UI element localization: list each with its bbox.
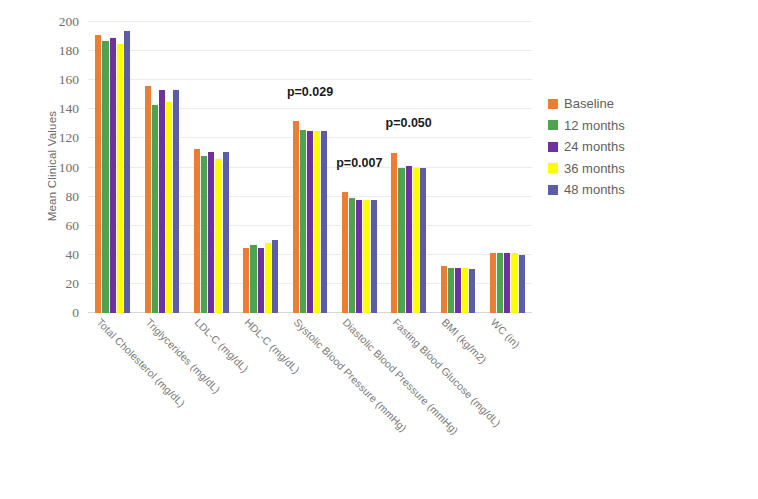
legend-label: 36 months <box>564 161 625 176</box>
bar <box>413 168 419 314</box>
bar-chart: Mean Clinical Values 0204060801001201401… <box>0 0 758 499</box>
legend-swatch-icon <box>548 99 558 109</box>
y-axis-tick-label: 120 <box>59 130 79 146</box>
bar <box>300 130 306 313</box>
bar <box>293 121 299 313</box>
bar <box>215 159 221 313</box>
bar <box>406 166 412 313</box>
legend-item[interactable]: 12 months <box>548 118 625 133</box>
bar <box>519 255 525 313</box>
bar <box>448 268 454 313</box>
x-axis-category-label: Total Cholesterol (mg/dL) <box>94 316 187 409</box>
legend-item[interactable]: 36 months <box>548 161 625 176</box>
x-axis-category-label: WC (in) <box>489 316 523 350</box>
pvalue-annotation: p=0.050 <box>386 116 432 130</box>
legend-item[interactable]: 24 months <box>548 139 625 154</box>
x-axis-category-labels: Total Cholesterol (mg/dL)Triglycerides (… <box>88 316 532 496</box>
bar <box>371 200 377 313</box>
bar <box>511 253 517 313</box>
bar <box>497 253 503 313</box>
bar <box>349 198 355 313</box>
y-axis-tick-label: 20 <box>66 276 80 292</box>
bar <box>490 253 496 313</box>
legend-label: 24 months <box>564 139 625 154</box>
x-axis-category-label: BMI (kg/m2) <box>440 316 490 366</box>
bar-group <box>384 22 433 313</box>
bar <box>462 268 468 313</box>
bar <box>110 38 116 313</box>
legend-swatch-icon <box>548 120 558 130</box>
bar <box>420 168 426 314</box>
bar <box>398 168 404 314</box>
bar <box>441 266 447 313</box>
bar <box>243 248 249 313</box>
bar <box>102 41 108 313</box>
legend-label: 12 months <box>564 118 625 133</box>
chart-legend: Baseline12 months24 months36 months48 mo… <box>548 96 625 197</box>
bar <box>173 90 179 313</box>
bar <box>272 240 278 313</box>
y-axis-tick-label: 180 <box>59 43 79 59</box>
bar <box>469 269 475 313</box>
bar-groups <box>88 22 532 313</box>
bar-group <box>433 22 482 313</box>
bar <box>95 35 101 313</box>
bar <box>159 90 165 313</box>
legend-item[interactable]: Baseline <box>548 96 625 111</box>
bar <box>321 131 327 313</box>
y-axis-tick-label: 0 <box>72 305 79 321</box>
pvalue-annotation: p=0.029 <box>287 85 333 99</box>
bar <box>391 153 397 313</box>
x-axis-category-label: Fasting Blood Glucose (mg/dL) <box>390 316 503 429</box>
bar-group <box>187 22 236 313</box>
y-axis-tick-label: 160 <box>59 72 79 88</box>
bar-group <box>236 22 285 313</box>
bar <box>166 102 172 313</box>
bar <box>250 245 256 313</box>
bar-group <box>137 22 186 313</box>
legend-item[interactable]: 48 months <box>548 182 625 197</box>
legend-swatch-icon <box>548 163 558 173</box>
legend-label: Baseline <box>564 96 614 111</box>
bar-group <box>285 22 334 313</box>
bar <box>258 248 264 313</box>
pvalue-annotation: p=0.007 <box>336 156 382 170</box>
bar <box>223 152 229 314</box>
bar <box>152 105 158 313</box>
bar <box>356 200 362 313</box>
plot-area: 020406080100120140160180200 p=0.029p=0.0… <box>88 22 532 313</box>
y-axis-tick-label: 140 <box>59 101 79 117</box>
bar-group <box>88 22 137 313</box>
legend-swatch-icon <box>548 142 558 152</box>
bar <box>124 31 130 313</box>
bar <box>201 156 207 313</box>
bar <box>265 243 271 313</box>
bar <box>117 44 123 313</box>
bar <box>363 200 369 313</box>
y-axis-title: Mean Clinical Values <box>46 66 58 266</box>
bar <box>145 86 151 313</box>
y-axis-tick-label: 40 <box>66 247 80 263</box>
bar <box>307 131 313 313</box>
bar <box>342 192 348 313</box>
legend-swatch-icon <box>548 185 558 195</box>
legend-label: 48 months <box>564 182 625 197</box>
bar <box>314 131 320 313</box>
bar <box>194 149 200 313</box>
y-axis-tick-label: 60 <box>66 218 80 234</box>
y-axis-tick-label: 80 <box>66 189 80 205</box>
y-axis-tick-label: 200 <box>59 14 79 30</box>
bar <box>455 268 461 313</box>
bar <box>504 253 510 313</box>
y-axis-tick-label: 100 <box>59 160 79 176</box>
bar-group <box>483 22 532 313</box>
bar <box>208 152 214 314</box>
